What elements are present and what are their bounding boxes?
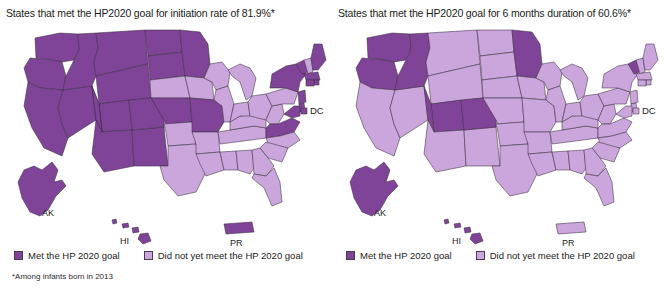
state-PA[interactable]	[598, 88, 630, 106]
legend-label-met: Met the HP 2020 goal	[28, 250, 120, 261]
state-OK[interactable]	[496, 122, 528, 146]
legend-swatch-met	[346, 251, 355, 260]
footnote-initiation: *Among infants born in 2013	[12, 272, 113, 281]
state-PR[interactable]	[556, 222, 586, 234]
state-PA[interactable]	[266, 88, 298, 106]
state-HI4[interactable]	[138, 233, 151, 244]
state-HI3[interactable]	[132, 227, 139, 233]
state-CT[interactable]	[306, 80, 314, 86]
state-NM[interactable]	[464, 127, 500, 166]
state-AL[interactable]	[236, 150, 254, 174]
inset-label-hi: HI	[452, 236, 461, 246]
state-TN[interactable]	[218, 126, 266, 144]
state-RI[interactable]	[314, 80, 319, 85]
breastfeeding-hp2020-map-figure: States that met the HP2020 goal for init…	[0, 0, 664, 293]
legend-swatch-not-met	[476, 251, 485, 260]
map-legend-duration: Met the HP 2020 goal Did not yet meet th…	[332, 250, 664, 261]
page-title-initiation: States that met the HP2020 goal for init…	[0, 0, 332, 19]
state-PR[interactable]	[224, 222, 254, 234]
state-MA[interactable]	[636, 72, 652, 80]
map-panel-duration: States that met the HP2020 goal for 6 mo…	[332, 0, 664, 293]
state-AR[interactable]	[524, 132, 552, 154]
state-ME[interactable]	[643, 44, 658, 70]
state-MI[interactable]	[228, 64, 256, 100]
us-map-svg-duration: AK HI PR DC	[332, 20, 664, 248]
state-AR[interactable]	[192, 132, 220, 154]
state-MD[interactable]	[616, 106, 632, 118]
state-ME[interactable]	[311, 44, 326, 70]
state-DC[interactable]	[633, 108, 639, 114]
state-SD[interactable]	[148, 52, 185, 80]
dc-label: DC	[642, 105, 656, 116]
state-HI3[interactable]	[464, 227, 471, 233]
state-ND[interactable]	[477, 30, 514, 56]
state-RI[interactable]	[646, 80, 651, 85]
dc-label: DC	[310, 105, 324, 116]
state-AL[interactable]	[568, 150, 586, 174]
page-title-duration: States that met the HP2020 goal for 6 mo…	[332, 0, 664, 19]
state-HI4[interactable]	[470, 233, 483, 244]
state-MA[interactable]	[304, 72, 320, 80]
legend-item-met: Met the HP 2020 goal	[14, 250, 120, 261]
states-group	[18, 30, 326, 244]
state-NE[interactable]	[150, 76, 190, 98]
state-WA[interactable]	[35, 33, 79, 62]
legend-item-not-met: Did not yet meet the HP 2020 goal	[144, 250, 303, 261]
state-HI2[interactable]	[122, 223, 129, 228]
state-HI2[interactable]	[454, 223, 461, 228]
state-WA[interactable]	[367, 33, 411, 62]
map-legend-initiation: Met the HP 2020 goal Did not yet meet th…	[0, 250, 332, 261]
inset-label-ak: AK	[42, 208, 54, 218]
state-HI[interactable]	[112, 219, 117, 224]
state-OK[interactable]	[164, 122, 196, 146]
legend-label-not-met: Did not yet meet the HP 2020 goal	[158, 250, 303, 261]
inset-label-pr: PR	[562, 238, 575, 248]
state-UT[interactable]	[431, 100, 464, 132]
state-ND[interactable]	[145, 30, 182, 56]
states-group	[350, 30, 658, 244]
us-map-initiation: AK HI PR DC	[0, 20, 332, 248]
state-SD[interactable]	[480, 52, 517, 80]
us-map-svg-initiation: AK HI PR DC	[0, 20, 332, 248]
inset-label-ak: AK	[374, 208, 386, 218]
legend-label-met: Met the HP 2020 goal	[360, 250, 452, 261]
legend-swatch-not-met	[144, 251, 153, 260]
state-NJ[interactable]	[630, 90, 638, 104]
legend-item-met: Met the HP 2020 goal	[346, 250, 452, 261]
map-panel-initiation: States that met the HP2020 goal for init…	[0, 0, 332, 293]
state-CT[interactable]	[638, 80, 646, 86]
us-map-duration: AK HI PR DC	[332, 20, 664, 248]
inset-label-pr: PR	[230, 238, 243, 248]
state-HI[interactable]	[444, 219, 449, 224]
inset-label-hi: HI	[120, 236, 129, 246]
legend-swatch-met	[14, 251, 23, 260]
state-MD[interactable]	[284, 106, 300, 118]
state-NJ[interactable]	[298, 90, 306, 104]
state-MN[interactable]	[512, 30, 542, 78]
state-MI[interactable]	[560, 64, 588, 100]
legend-label-not-met: Did not yet meet the HP 2020 goal	[490, 250, 635, 261]
state-NM[interactable]	[132, 127, 168, 166]
state-TN[interactable]	[550, 126, 598, 144]
state-MN[interactable]	[180, 30, 210, 78]
state-NE[interactable]	[482, 76, 522, 98]
legend-item-not-met: Did not yet meet the HP 2020 goal	[476, 250, 635, 261]
state-DC[interactable]	[301, 108, 307, 114]
